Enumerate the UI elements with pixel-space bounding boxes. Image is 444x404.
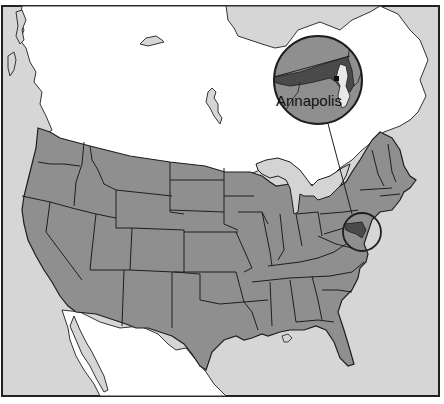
annapolis-label: Annapolis <box>276 92 342 109</box>
us-map: Annapolis <box>0 0 444 404</box>
capital-marker <box>334 76 339 81</box>
map-svg: Annapolis <box>0 0 444 404</box>
